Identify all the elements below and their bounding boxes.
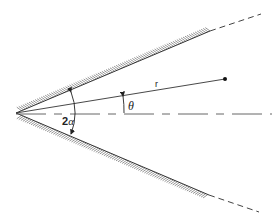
point-marker [223,77,227,81]
upper-wall-line [16,31,210,113]
two-alpha-arc [71,92,75,134]
upper-wall-extension [210,14,261,31]
label-alpha: α [68,115,74,127]
wedge-diagram: r θ 2α [0,0,276,222]
upper-wall-hatching [17,28,210,111]
lower-wall-hatching [17,115,208,198]
lower-wall-line [16,113,209,195]
label-two-alpha: 2α [62,115,74,127]
label-r: r [155,79,158,89]
lower-wall-extension [209,195,259,212]
label-theta: θ [128,99,134,113]
theta-arc [123,96,124,113]
radius-vector [16,79,225,113]
